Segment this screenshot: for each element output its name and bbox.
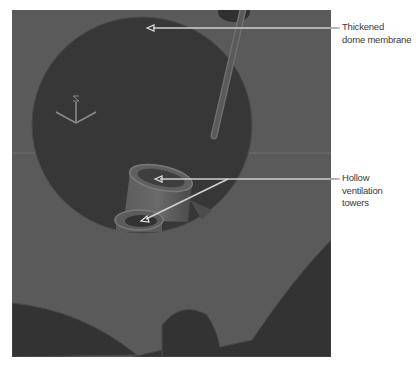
callout-line: ventilation	[342, 185, 383, 198]
lower-cutouts	[12, 240, 331, 357]
callout-label-dome: Thickened dome membrane	[342, 21, 411, 46]
callout-line: dome membrane	[342, 34, 411, 47]
callout-line: towers	[342, 197, 383, 210]
callout-label-towers: Hollow ventilation towers	[342, 172, 383, 210]
callout-line: Thickened	[342, 21, 411, 34]
cad-render-viewport	[12, 10, 331, 357]
scene	[12, 10, 331, 357]
callout-line: Hollow	[342, 172, 383, 185]
